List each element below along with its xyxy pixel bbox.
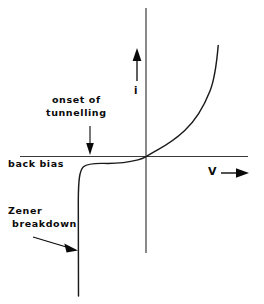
onset-of-tunnelling-label-line1: onset of (52, 94, 101, 105)
zener-breakdown-label-line1: Zener (8, 205, 42, 216)
onset-of-tunnelling-label: onset of tunnelling (46, 94, 107, 120)
voltage-axis-arrow (221, 168, 249, 178)
zener-breakdown-arrow (33, 237, 78, 253)
onset-of-tunnelling-label-line2: tunnelling (46, 107, 107, 120)
current-axis-label: i (134, 84, 138, 98)
voltage-axis-label: V (208, 165, 217, 180)
zener-breakdown-label: Zener breakdown (8, 205, 77, 231)
diode-iv-characteristic-figure: onset of tunnelling back bias Zener brea… (0, 0, 264, 304)
iv-curve-plot (0, 0, 264, 304)
back-bias-label: back bias (8, 158, 64, 171)
zener-breakdown-label-line2: breakdown (12, 218, 77, 231)
iv-curve-path (78, 46, 218, 297)
current-axis-arrow (133, 48, 142, 81)
onset-of-tunnelling-arrow (86, 126, 94, 155)
